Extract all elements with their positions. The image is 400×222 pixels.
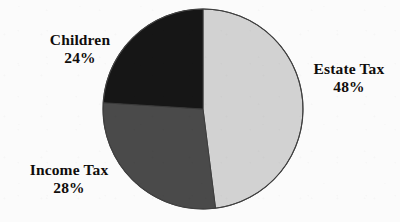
pie-label-estate-tax-value: 48% bbox=[300, 78, 398, 96]
pie-label-estate-tax: Estate Tax 48% bbox=[300, 60, 398, 96]
pie-label-children: Children 24% bbox=[30, 31, 130, 67]
pie-chart-figure: Children 24% Estate Tax 48% Income Tax 2… bbox=[0, 0, 400, 222]
pie-label-income-tax: Income Tax 28% bbox=[10, 161, 128, 197]
pie-label-income-tax-name: Income Tax bbox=[10, 161, 128, 179]
pie-label-estate-tax-name: Estate Tax bbox=[300, 60, 398, 78]
pie-label-income-tax-value: 28% bbox=[10, 179, 128, 197]
pie-slice-estate-tax[interactable] bbox=[203, 9, 303, 208]
pie-label-children-value: 24% bbox=[30, 49, 130, 67]
pie-label-children-name: Children bbox=[30, 31, 130, 49]
